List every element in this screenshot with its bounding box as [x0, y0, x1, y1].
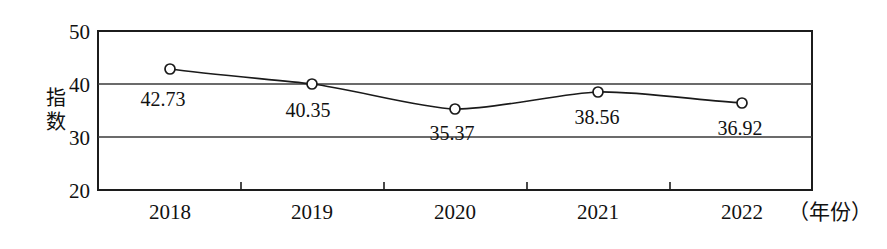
x-tick-label-2022: 2022	[721, 200, 763, 224]
data-point-2019	[307, 79, 317, 89]
y-axis-title-char-1: 指	[46, 87, 66, 109]
y-tick-label-30: 30	[69, 126, 90, 150]
data-label-2020: 35.37	[430, 122, 475, 144]
y-tick-label-20: 20	[69, 179, 90, 203]
series-line-index	[170, 69, 742, 109]
data-label-2018: 42.73	[141, 88, 186, 110]
chart-canvas: 50 40 30 20 指 数 42.73 40.35 35.37 38.56 …	[0, 0, 887, 249]
x-axis-unit-label: （年份）	[788, 200, 872, 224]
data-label-2019: 40.35	[286, 99, 331, 121]
x-tick-label-2020: 2020	[434, 200, 476, 224]
y-axis-title-char-2: 数	[46, 111, 66, 133]
x-tick-label-2021: 2021	[577, 200, 619, 224]
y-tick-label-40: 40	[69, 73, 90, 97]
line-chart: 50 40 30 20 指 数 42.73 40.35 35.37 38.56 …	[0, 0, 887, 249]
data-label-2022: 36.92	[718, 117, 763, 139]
data-point-2022	[737, 98, 747, 108]
data-label-2021: 38.56	[575, 106, 620, 128]
data-point-2018	[165, 64, 175, 74]
x-tick-label-2018: 2018	[149, 200, 191, 224]
data-point-2021	[593, 87, 603, 97]
y-tick-label-50: 50	[69, 20, 90, 44]
data-point-2020	[450, 104, 460, 114]
x-tick-label-2019: 2019	[291, 200, 333, 224]
